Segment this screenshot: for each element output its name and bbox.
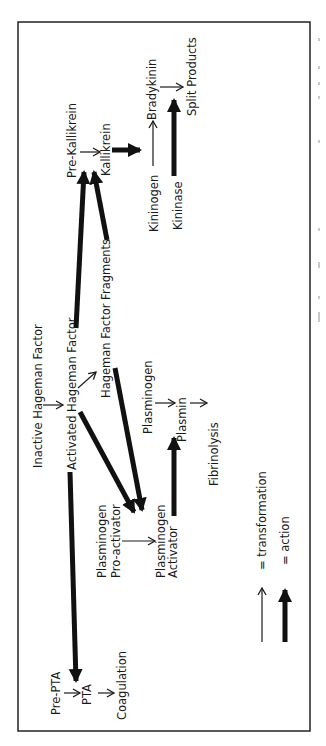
node-kininogen: Kininogen bbox=[147, 175, 161, 232]
svg-text:Kininogen: Kininogen bbox=[147, 175, 161, 232]
svg-text:Plasminogen: Plasminogen bbox=[141, 360, 155, 434]
svg-text:Coagulation: Coagulation bbox=[115, 651, 129, 720]
node-kallikrein: Kallikrein bbox=[99, 123, 113, 176]
svg-text:Pre-Kallikrein: Pre-Kallikrein bbox=[65, 103, 79, 178]
node-hageman-factor-fragments: Hageman Factor Fragments bbox=[99, 239, 113, 398]
svg-text:Kallikrein: Kallikrein bbox=[99, 123, 113, 176]
svg-text:Fibrinolysis: Fibrinolysis bbox=[207, 422, 221, 486]
svg-text:Inactive Hageman Factor: Inactive Hageman Factor bbox=[31, 324, 45, 468]
svg-text:Activator: Activator bbox=[166, 526, 180, 578]
node-bradykinin: Bradykinin bbox=[145, 59, 159, 120]
node-pre-kallikrein: Pre-Kallikrein bbox=[65, 103, 79, 178]
figure-frame bbox=[18, 22, 310, 731]
svg-text:Bradykinin: Bradykinin bbox=[145, 59, 159, 120]
caption-fragment bbox=[318, 38, 320, 322]
svg-text:PTA: PTA bbox=[80, 684, 94, 705]
node-fibrinolysis: Fibrinolysis bbox=[207, 422, 221, 486]
svg-text:Pre-PTA: Pre-PTA bbox=[49, 672, 63, 715]
node-coagulation: Coagulation bbox=[115, 651, 129, 720]
node-plasminogen: Plasminogen bbox=[141, 360, 155, 434]
svg-text:Activated Hageman Factor: Activated Hageman Factor bbox=[65, 317, 79, 470]
svg-text:Plasminogen: Plasminogen bbox=[95, 504, 109, 578]
node-pta: PTA bbox=[80, 684, 94, 705]
node-pre-pta: Pre-PTA bbox=[49, 672, 63, 715]
svg-text:Hageman Factor Fragments: Hageman Factor Fragments bbox=[99, 239, 113, 398]
pathway-diagram: Inactive Hageman Factor Activated Hagema… bbox=[0, 0, 326, 746]
node-inactive-hageman-factor: Inactive Hageman Factor bbox=[31, 324, 45, 468]
svg-text:Kininase: Kininase bbox=[171, 181, 185, 230]
node-activated-hageman-factor: Activated Hageman Factor bbox=[65, 317, 79, 470]
node-kininase: Kininase bbox=[171, 181, 185, 230]
legend-action-label: = action bbox=[278, 516, 292, 565]
svg-text:Split Products: Split Products bbox=[185, 37, 199, 116]
node-plasmin: Plasmin bbox=[175, 397, 189, 442]
node-split-products: Split Products bbox=[185, 37, 199, 116]
svg-text:Pro-activator: Pro-activator bbox=[109, 504, 123, 578]
legend-transformation-label: = transformation bbox=[255, 471, 269, 570]
node-plasminogen-pro-activator: Plasminogen Pro-activator bbox=[95, 504, 123, 578]
svg-text:Plasmin: Plasmin bbox=[175, 397, 189, 442]
